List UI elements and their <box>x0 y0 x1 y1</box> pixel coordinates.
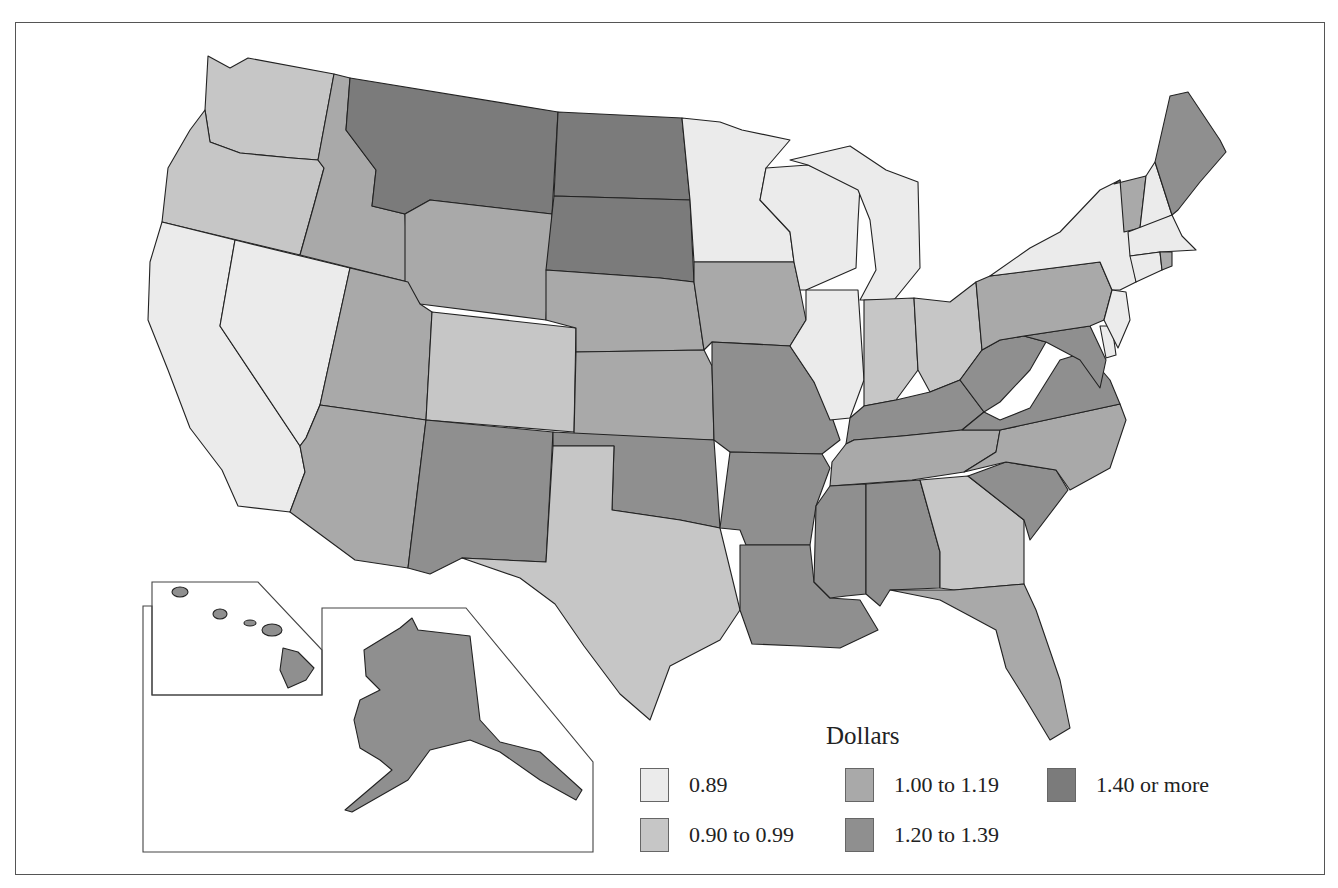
state-AR <box>720 452 830 545</box>
legend-label: 1.00 to 1.19 <box>894 772 999 798</box>
legend-swatch <box>640 768 669 802</box>
state-NM <box>408 420 553 574</box>
legend-swatch <box>845 818 874 852</box>
legend-label: 0.90 to 0.99 <box>689 822 794 848</box>
legend-label: 1.40 or more <box>1096 772 1209 798</box>
state-AZ <box>290 405 426 568</box>
state-HI <box>172 587 314 688</box>
legend-swatch <box>640 818 669 852</box>
state-MS <box>814 484 866 598</box>
state-ME <box>1155 92 1226 215</box>
state-RI <box>1160 252 1172 270</box>
state-FL <box>890 584 1070 740</box>
legend-title: Dollars <box>826 722 900 750</box>
legend-item-1.20-1.39: 1.20 to 1.39 <box>845 818 999 852</box>
legend-item-0.90-0.99: 0.90 to 0.99 <box>640 818 794 852</box>
state-IN <box>864 298 918 406</box>
state-WA <box>205 56 334 160</box>
state-MT <box>346 78 558 214</box>
legend-label: 1.20 to 1.39 <box>894 822 999 848</box>
legend-label: 0.89 <box>689 772 728 798</box>
state-SD <box>546 196 694 282</box>
state-KS <box>574 350 714 440</box>
legend-swatch <box>845 768 874 802</box>
state-CO <box>426 312 576 432</box>
us-map <box>0 0 1338 888</box>
state-IA <box>694 262 806 350</box>
state-ND <box>554 112 690 200</box>
state-AK <box>345 618 582 812</box>
state-CT <box>1130 252 1162 282</box>
legend-item-0.89: 0.89 <box>640 768 728 802</box>
legend-item-1.40-or-more: 1.40 or more <box>1047 768 1209 802</box>
legend-item-1.00-1.19: 1.00 to 1.19 <box>845 768 999 802</box>
legend-swatch <box>1047 768 1076 802</box>
state-WY <box>405 200 552 320</box>
